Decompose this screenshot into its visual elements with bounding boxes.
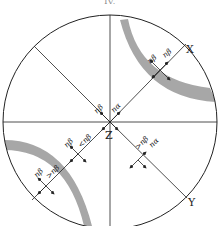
- shade-upper-right: [120, 19, 216, 102]
- label-lower-left-inner-1: nβ: [62, 136, 75, 149]
- y-axis-line: [110, 122, 187, 198]
- label-center-2: nα: [109, 101, 122, 114]
- cross-lower-right: [130, 152, 146, 168]
- label-upper-right-2: nβ: [161, 46, 174, 59]
- label-lower-left-outer-1: nβ: [32, 166, 45, 179]
- z-axis-label: Z: [105, 129, 113, 142]
- label-lower-left-inner-2: <nβ: [76, 132, 94, 150]
- x-axis-label: X: [186, 43, 194, 56]
- label-lower-right-2: nα: [147, 136, 160, 149]
- y-axis-label: Y: [187, 196, 196, 209]
- optical-indicatrix-diagram: X Y Z nβ nβ nβ nα nβ <nβ nβ >nβ >nβ nα: [0, 0, 219, 226]
- label-center-1: nβ: [92, 102, 105, 115]
